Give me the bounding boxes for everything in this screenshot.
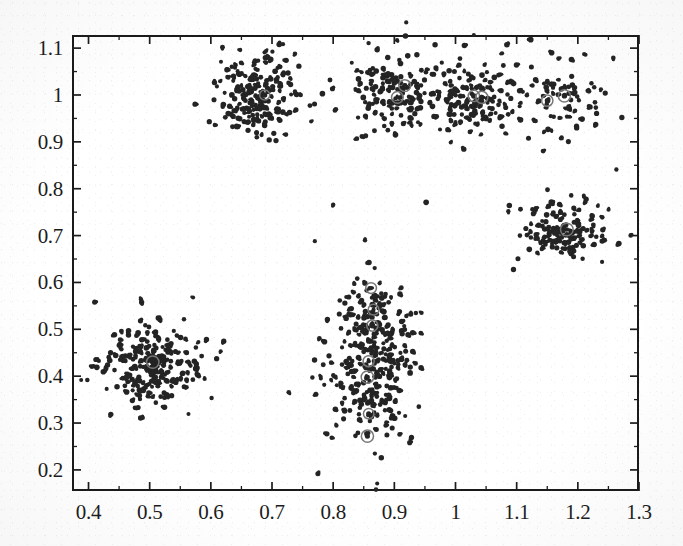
x-tick-label: 0.5 [137, 500, 162, 525]
x-tick-label: 0.6 [198, 500, 223, 525]
scatter-plot-figure: 0.40.50.60.70.80.911.11.21.30.20.30.40.5… [0, 0, 683, 546]
scatter-point [404, 20, 408, 24]
x-tick-label: 0.8 [320, 500, 345, 525]
y-tick-label: 0.4 [38, 364, 63, 389]
x-tick-label: 1.3 [626, 500, 651, 525]
y-tick-label: 0.8 [38, 176, 63, 201]
y-tick-label: 1.1 [38, 36, 63, 61]
x-tick-label: 0.7 [259, 500, 284, 525]
y-tick-label: 0.2 [38, 457, 63, 482]
x-tick-label: 0.4 [76, 500, 101, 525]
plot-axes-frame [72, 35, 639, 491]
x-tick-label: 0.9 [382, 500, 407, 525]
x-tick-label: 1 [450, 500, 460, 525]
y-tick-label: 0.3 [38, 411, 63, 436]
x-tick-label: 1.1 [504, 500, 529, 525]
y-tick-label: 0.9 [38, 129, 63, 154]
y-tick-label: 0.5 [38, 317, 63, 342]
x-tick-label: 1.2 [565, 500, 590, 525]
y-tick-label: 0.7 [38, 223, 63, 248]
y-tick-label: 0.6 [38, 270, 63, 295]
y-tick-label: 1 [53, 82, 63, 107]
